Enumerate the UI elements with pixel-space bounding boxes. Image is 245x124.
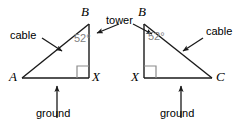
left-right-angle-mark <box>77 66 89 78</box>
left-vertex-label-X: X <box>92 70 100 83</box>
right-right-angle-mark <box>144 66 156 78</box>
right-cable-arrow <box>183 38 203 51</box>
right-angle-label: 52° <box>148 31 165 42</box>
left-ground-label: ground <box>36 108 70 119</box>
left-cable-label: cable <box>10 30 36 41</box>
right-vertex-label-C: C <box>216 70 225 83</box>
geometry-figure: B A X 52° cable ground tower B X C 52° c… <box>0 0 245 124</box>
left-angle-label: 52° <box>74 33 91 44</box>
right-vertex-label-X: X <box>131 70 139 83</box>
tower-label: tower <box>106 15 133 26</box>
left-vertex-label-B: B <box>81 5 89 18</box>
left-vertex-label-A: A <box>9 70 17 83</box>
right-vertex-label-B: B <box>138 5 146 18</box>
right-ground-label: ground <box>160 108 194 119</box>
right-cable-label: cable <box>206 26 232 37</box>
left-cable-arrow <box>42 38 62 51</box>
